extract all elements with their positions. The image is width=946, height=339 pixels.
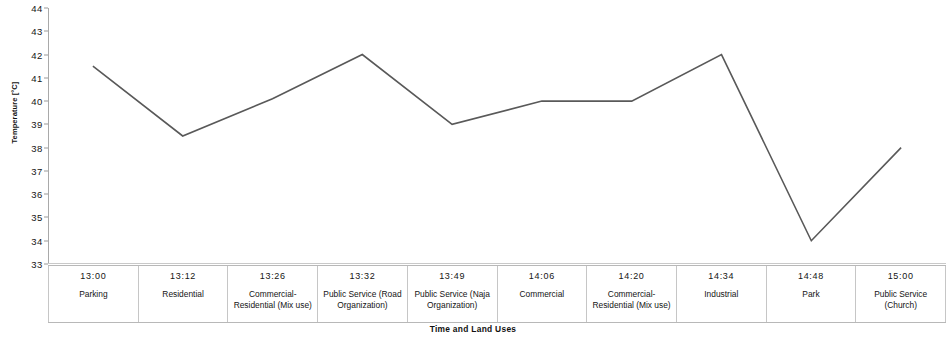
x-axis-cell: 13:00Parking [48,266,139,322]
x-axis-cell: 13:26Commercial-Residential (Mix use) [228,266,318,322]
x-axis-time-label: 14:20 [619,271,645,282]
series-polyline [93,55,901,241]
x-axis-time-label: 15:00 [888,271,914,282]
y-tick-label: 35 [31,212,43,223]
x-axis-landuse-label: Residential [159,289,206,300]
x-axis-cell: 14:06Commercial [498,266,588,322]
y-tick-label: 42 [31,49,43,60]
x-axis-time-label: 14:48 [798,271,824,282]
y-tick-label: 40 [31,96,43,107]
x-axis-time-label: 13:49 [439,271,465,282]
temperature-line-chart: Temperature [°C] 44434241403938373635343… [0,0,946,339]
x-axis-cell: 15:00Public Service (Church) [856,266,946,322]
y-tick-label: 41 [31,72,43,83]
x-axis-title: Time and Land Uses [0,324,946,334]
temperature-series [48,8,946,264]
x-axis-landuse-label: Commercial-Residential (Mix use) [587,289,676,311]
x-axis-time-label: 13:00 [80,271,106,282]
x-axis-landuse-label: Public Service (Church) [856,289,945,311]
x-axis-cell: 13:12Residential [139,266,229,322]
x-axis-time-label: 13:26 [260,271,286,282]
y-tick-label: 36 [31,189,43,200]
x-axis-time-label: 14:06 [529,271,555,282]
y-tick-label: 33 [31,259,43,270]
y-tick-label: 38 [31,142,43,153]
x-axis-cell: 14:34Industrial [677,266,767,322]
y-tick-label: 43 [31,26,43,37]
x-axis-landuse-label: Public Service (Road Organization) [318,289,407,311]
x-axis-category-table: 13:00Parking13:12Residential13:26Commerc… [48,265,946,323]
plot-area: 444342414039383736353433 [48,8,946,264]
y-tick-label: 34 [31,235,43,246]
y-axis-title: Temperature [°C] [10,73,19,153]
x-axis-landuse-label: Public Service (Naja Organization) [408,289,497,311]
x-axis-cell: 13:49Public Service (Naja Organization) [408,266,498,322]
x-axis-landuse-label: Commercial [517,289,568,300]
y-tick-label: 37 [31,165,43,176]
x-axis-landuse-label: Parking [76,289,110,300]
y-tick-label: 44 [31,3,43,14]
y-tick-label: 39 [31,119,43,130]
x-axis-cell: 13:32Public Service (Road Organization) [318,266,408,322]
x-axis-landuse-label: Park [799,289,822,300]
x-axis-landuse-label: Industrial [701,289,741,300]
x-axis-time-label: 13:32 [349,271,375,282]
x-axis-cell: 14:48Park [767,266,857,322]
x-axis-time-label: 13:12 [170,271,196,282]
x-axis-landuse-label: Commercial-Residential (Mix use) [228,289,317,311]
x-axis-cell: 14:20Commercial-Residential (Mix use) [587,266,677,322]
x-axis-time-label: 14:34 [708,271,734,282]
